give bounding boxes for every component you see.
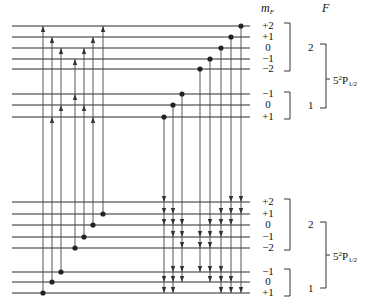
arrow-up-icon <box>50 117 54 123</box>
arrow-up-icon <box>59 48 63 54</box>
energy-level-diagram <box>0 0 377 304</box>
arrow-down-icon <box>219 231 223 237</box>
population-dot <box>100 211 105 216</box>
lower-f2-label: 2 <box>308 219 314 230</box>
arrow-up-icon <box>41 26 45 32</box>
arrow-down-icon <box>162 287 166 293</box>
population-dot <box>238 23 243 28</box>
arrow-down-icon <box>219 219 223 225</box>
arrow-up-icon <box>73 59 77 65</box>
arrow-down-icon <box>229 208 233 214</box>
population-dot <box>207 56 212 61</box>
bracket-upper-f1 <box>284 92 290 119</box>
bracket-upper-f2 <box>284 23 290 71</box>
arrow-up-icon <box>101 26 105 32</box>
arrow-down-icon <box>219 287 223 293</box>
arrow-down-icon <box>162 219 166 225</box>
arrow-up-icon <box>82 105 86 111</box>
arrow-down-icon <box>219 266 223 272</box>
arrow-down-icon <box>171 287 175 293</box>
mf-label: 0 <box>257 99 279 110</box>
arrow-down-icon <box>229 287 233 293</box>
arrow-down-icon <box>208 266 212 272</box>
arrow-down-icon <box>171 276 175 282</box>
arrow-down-icon <box>208 219 212 225</box>
transitions <box>40 23 243 295</box>
population-dot <box>49 279 54 284</box>
population-dot <box>228 34 233 39</box>
arrow-up-icon <box>59 105 63 111</box>
mf-label: +1 <box>257 111 279 122</box>
population-dot <box>218 45 223 50</box>
arrow-down-icon <box>171 219 175 225</box>
arrow-down-icon <box>198 266 202 272</box>
population-dot <box>58 269 63 274</box>
population-dot <box>90 222 95 227</box>
arrow-down-icon <box>229 276 233 282</box>
arrow-down-icon <box>171 208 175 214</box>
arrow-down-icon <box>239 196 243 202</box>
arrow-down-icon <box>239 287 243 293</box>
arrow-down-icon <box>162 196 166 202</box>
arrow-up-icon <box>91 117 95 123</box>
lower-f1-label: 1 <box>308 283 314 294</box>
arrow-down-icon <box>180 231 184 237</box>
arrow-down-icon <box>162 276 166 282</box>
bracket-lower-f1 <box>284 269 290 296</box>
arrow-down-icon <box>198 242 202 248</box>
arrow-up-icon <box>82 48 86 54</box>
mf-label: −2 <box>257 242 279 253</box>
arrow-up-icon <box>50 37 54 43</box>
arrow-down-icon <box>219 208 223 214</box>
population-dot <box>179 91 184 96</box>
arrow-down-icon <box>239 208 243 214</box>
population-dot <box>81 234 86 239</box>
population-dot <box>161 114 166 119</box>
population-dot <box>197 66 202 71</box>
arrow-down-icon <box>219 276 223 282</box>
arrow-down-icon <box>208 242 212 248</box>
bracket-lower-f2 <box>284 199 290 250</box>
arrow-down-icon <box>180 242 184 248</box>
mf-header: mF <box>261 3 274 18</box>
mf-label: −2 <box>257 63 279 74</box>
arrow-down-icon <box>208 231 212 237</box>
population-dot <box>170 102 175 107</box>
arrow-down-icon <box>180 266 184 272</box>
arrow-down-icon <box>198 231 202 237</box>
arrow-down-icon <box>229 196 233 202</box>
bracket-lower-term <box>320 222 330 288</box>
arrow-up-icon <box>91 37 95 43</box>
arrow-down-icon <box>208 276 212 282</box>
upper-f2-label: 2 <box>308 42 314 53</box>
brackets <box>284 23 330 296</box>
population-dot <box>72 245 77 250</box>
arrow-down-icon <box>171 266 175 272</box>
arrow-down-icon <box>229 219 233 225</box>
arrow-down-icon <box>162 208 166 214</box>
mf-label: +2 <box>257 196 279 207</box>
arrow-down-icon <box>180 276 184 282</box>
mf-label: 0 <box>257 219 279 230</box>
bracket-upper-term <box>320 44 330 108</box>
lower-term-label: 52P1/2 <box>333 249 357 266</box>
arrow-down-icon <box>171 231 175 237</box>
mf-label: +1 <box>257 287 279 298</box>
energy-levels <box>12 26 250 293</box>
arrow-down-icon <box>180 219 184 225</box>
arrow-up-icon <box>73 94 77 100</box>
population-dot <box>40 290 45 295</box>
upper-term-label: 52P1/2 <box>333 73 357 90</box>
upper-f1-label: 1 <box>308 100 314 111</box>
f-header: F <box>322 3 329 14</box>
